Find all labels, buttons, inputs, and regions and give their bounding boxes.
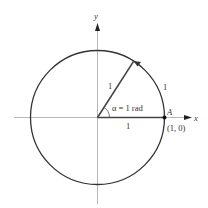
y-axis-label: y [93,11,98,21]
point-a-coords: (1, 0) [167,123,186,133]
angle-arc [104,107,110,117]
unit-circle-diagram: y x 1 1 1 α = 1 rad A (1, 0) [0,0,208,208]
base-label: 1 [126,121,130,131]
x-axis-arrow-icon [184,115,192,120]
x-axis-label: x [193,113,198,123]
radius-label: 1 [108,81,112,91]
point-a-label: A [166,107,173,117]
arc-label: 1 [163,82,167,92]
y-axis-arrow-icon [95,23,100,31]
angle-label: α = 1 rad [112,103,143,113]
point-a-dot [163,116,167,120]
